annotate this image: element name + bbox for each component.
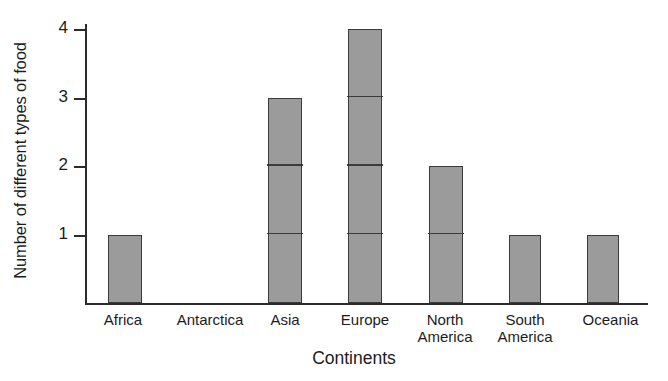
y-axis-title: Number of different types of food	[0, 0, 40, 320]
bar-oceania	[587, 235, 619, 304]
x-axis-label-oceania: Oceania	[563, 311, 658, 328]
x-axis-label-north-america: North America	[400, 311, 490, 345]
x-axis-label-south-america: South America	[480, 311, 570, 345]
bar-segment-line	[428, 233, 463, 235]
y-axis-line	[85, 24, 87, 305]
y-axis-tick-4: 4	[74, 29, 85, 31]
bar-chart: Number of different types of food 1234 A…	[0, 0, 668, 381]
bar-segment-line	[347, 164, 382, 166]
x-axis-label-europe: Europe	[320, 311, 410, 328]
bar-segment-line	[267, 164, 302, 166]
y-axis-title-text: Number of different types of food	[11, 42, 30, 279]
y-axis-tick-1: 1	[74, 235, 85, 237]
y-axis-tick-2: 2	[74, 166, 85, 168]
x-axis-title: Continents	[0, 348, 668, 369]
y-axis-tick-label-3: 3	[46, 87, 68, 107]
bar-africa	[108, 235, 142, 304]
bar-segment-line	[347, 233, 382, 235]
x-axis-line	[85, 303, 648, 305]
bar-segment-line	[267, 233, 302, 235]
y-axis-tick-label-4: 4	[46, 18, 68, 38]
y-axis-tick-label-2: 2	[46, 155, 68, 175]
bar-asia	[268, 98, 302, 304]
x-axis-label-asia: Asia	[240, 311, 330, 328]
bar-south-america	[509, 235, 541, 304]
bar-europe	[348, 29, 382, 303]
y-axis-tick-3: 3	[74, 98, 85, 100]
bar-segment-line	[347, 96, 382, 98]
plot-area: 1234	[85, 24, 648, 305]
bar-north-america	[429, 166, 463, 303]
y-axis-tick-label-1: 1	[46, 224, 68, 244]
x-axis-title-text: Continents	[312, 348, 396, 369]
